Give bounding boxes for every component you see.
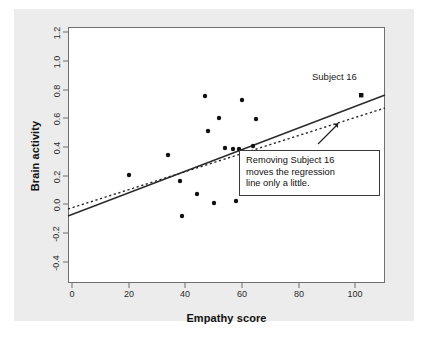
data-point [254,117,258,121]
data-point [231,147,235,151]
data-point [203,94,207,98]
data-point [251,144,255,148]
annotation-line-2: moves the regression [246,167,374,179]
data-point [234,199,238,203]
data-point [180,214,184,218]
data-point [206,129,210,133]
annotation-line-1: Removing Subject 16 [246,155,374,167]
subject-16-point-label: Subject 16 [312,71,357,82]
highlight-point-subject-16 [359,93,363,97]
data-point [223,146,227,150]
annotation-line-3: line only a little. [246,178,374,190]
data-point [240,98,244,102]
callout-arrow [318,123,338,144]
data-point [127,173,131,177]
data-point [178,179,182,183]
data-point [217,116,221,120]
data-point [195,192,199,196]
data-point [212,201,216,205]
annotation-callout-box: Removing Subject 16 moves the regression… [239,150,380,196]
data-point [166,153,170,157]
figure-container: Brain activity Empathy score 1.2 1.0 0.8… [0,0,428,340]
